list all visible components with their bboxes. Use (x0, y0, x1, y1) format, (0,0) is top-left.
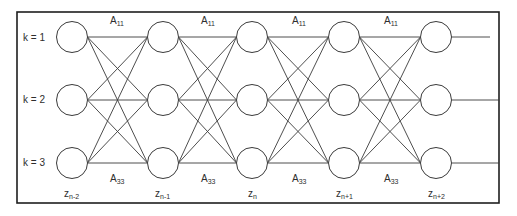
column-label-z-n+1: zn+1 (336, 188, 353, 200)
state-node (329, 148, 360, 179)
svg-text:A11: A11 (201, 15, 215, 27)
state-node (421, 148, 452, 179)
state-node (329, 85, 360, 116)
row-label-k3: k = 3 (23, 157, 45, 168)
column-label-z-n+2: zn+2 (428, 188, 445, 200)
svg-text:A33: A33 (201, 173, 216, 185)
row-label-k1: k = 1 (23, 32, 45, 43)
state-node (148, 85, 179, 116)
state-node (57, 85, 88, 116)
state-node (237, 148, 268, 179)
state-node (421, 22, 452, 53)
state-node (237, 85, 268, 116)
column-label-z-n-1: zn-1 (155, 188, 170, 200)
state-node (421, 85, 452, 116)
svg-text:A11: A11 (384, 15, 398, 27)
state-node (148, 22, 179, 53)
state-node (57, 148, 88, 179)
trellis-diagram: k = 1 k = 2 k = 3 A11 A11 A11 A11 A33 A3… (0, 0, 517, 216)
svg-text:A33: A33 (292, 173, 307, 185)
state-node (57, 22, 88, 53)
svg-text:A11: A11 (110, 15, 124, 27)
column-label-z-n: zn (248, 188, 257, 200)
row-label-k2: k = 2 (23, 94, 45, 105)
svg-text:A11: A11 (292, 15, 306, 27)
state-node (237, 22, 268, 53)
state-node (148, 148, 179, 179)
svg-text:A33: A33 (110, 173, 125, 185)
svg-text:A33: A33 (384, 173, 399, 185)
state-node (329, 22, 360, 53)
column-label-z-n-2: zn-2 (64, 188, 79, 200)
